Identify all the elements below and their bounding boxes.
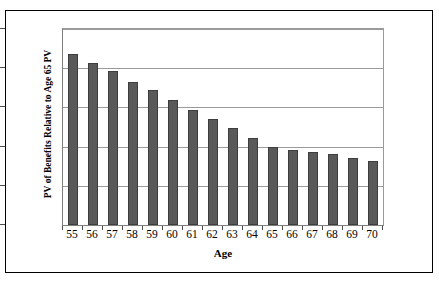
bar: [248, 138, 258, 225]
y-tick-mark: [0, 106, 5, 107]
bar: [288, 150, 298, 225]
x-tick-label: 61: [186, 229, 198, 241]
bar: [168, 100, 178, 225]
x-tick-label: 59: [146, 229, 158, 241]
x-tick-label: 69: [346, 229, 358, 241]
bar: [148, 90, 158, 225]
x-tick-label: 63: [226, 229, 238, 241]
x-tick-label: 68: [326, 229, 338, 241]
bar: [88, 63, 98, 225]
x-axis: 55565758596061626364656667686970: [62, 229, 384, 247]
bar: [188, 110, 198, 225]
y-tick-mark: [0, 28, 5, 29]
bar: [208, 119, 218, 225]
bar: [68, 54, 78, 225]
plot-area: [62, 28, 384, 226]
bar: [328, 154, 338, 225]
x-tick-label: 55: [66, 229, 78, 241]
bar: [108, 71, 118, 225]
y-tick-mark: [0, 224, 5, 225]
bar: [128, 82, 138, 225]
y-tick-mark: [0, 185, 5, 186]
x-axis-title: Age: [62, 247, 384, 259]
x-tick-label: 67: [306, 229, 318, 241]
x-tick-label: 58: [126, 229, 138, 241]
y-axis: 0.00.51.01.52.02.5: [0, 0, 62, 283]
chart-figure: PV of Benefits Relative to Age 65 PV 0.0…: [0, 0, 439, 283]
x-tick-label: 62: [206, 229, 218, 241]
bars-layer: [63, 29, 383, 225]
x-tick-label: 66: [286, 229, 298, 241]
bar: [228, 128, 238, 225]
bar: [308, 152, 318, 225]
y-tick-mark: [0, 146, 5, 147]
bar: [348, 158, 358, 225]
x-tick-label: 57: [106, 229, 118, 241]
bar: [268, 147, 278, 225]
x-tick-label: 64: [246, 229, 258, 241]
x-tick-label: 70: [366, 229, 378, 241]
x-tick-label: 60: [166, 229, 178, 241]
x-tick-label: 65: [266, 229, 278, 241]
bar: [368, 161, 378, 225]
y-tick-mark: [0, 67, 5, 68]
x-tick-label: 56: [86, 229, 98, 241]
